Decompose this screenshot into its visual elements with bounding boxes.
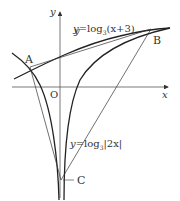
point-label-b: B — [153, 34, 161, 47]
curve2-label-html: y=log3|2x| — [70, 138, 122, 151]
x-axis-label: x — [162, 89, 168, 100]
point-label-a: A — [24, 53, 34, 66]
curve1-label-html: y=log3(x+3) — [73, 23, 135, 36]
curve-log3-abs-2x-left — [12, 53, 59, 200]
origin-label: O — [50, 89, 58, 100]
point-label-c: C — [77, 174, 85, 187]
segment-bc — [61, 29, 151, 180]
y-axis-label: y — [49, 6, 56, 17]
segment-ac — [30, 67, 61, 180]
